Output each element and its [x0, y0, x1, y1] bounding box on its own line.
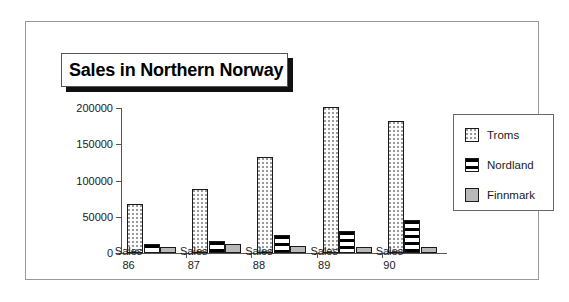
- y-axis-tick-label: 200000: [76, 102, 113, 114]
- x-axis-category-line: 90: [357, 258, 422, 272]
- x-axis-category-line: Sales: [226, 244, 291, 258]
- y-axis-tick: [116, 144, 121, 145]
- bar-group: [127, 108, 176, 253]
- legend-swatch-icon: [465, 188, 479, 202]
- plot-area: 050000100000150000200000: [121, 108, 447, 254]
- y-axis-tick-label: 100000: [76, 175, 113, 187]
- x-axis-category-line: Sales: [161, 244, 226, 258]
- bar-group: [323, 108, 372, 253]
- x-axis-category-line: 86: [96, 258, 161, 272]
- chart-legend: TromsNordlandFinnmark: [453, 114, 554, 211]
- y-axis-tick: [116, 217, 121, 218]
- bar-finnmark: [421, 247, 437, 253]
- legend-item-label: Nordland: [487, 159, 534, 171]
- page-title: Sales in Northern Norway: [69, 60, 283, 81]
- chart-frame: Sales in Northern Norway 050000100000150…: [25, 21, 539, 280]
- legend-swatch-icon: [465, 158, 479, 172]
- x-axis-category-line: 89: [292, 258, 357, 272]
- x-axis-category-label: Sales88: [226, 244, 291, 272]
- x-axis-category-label: Sales89: [292, 244, 357, 272]
- x-axis-category-line: 88: [226, 258, 291, 272]
- y-axis-line: [121, 108, 122, 254]
- y-axis-tick: [116, 108, 121, 109]
- legend-item-label: Troms: [487, 129, 519, 141]
- legend-swatch-icon: [465, 128, 479, 142]
- y-axis-tick-label: 50000: [82, 211, 113, 223]
- bar-group: [192, 108, 241, 253]
- y-axis-tick-label: 150000: [76, 138, 113, 150]
- x-axis-category-label: Sales86: [96, 244, 161, 272]
- legend-item-finnmark[interactable]: Finnmark: [465, 188, 535, 202]
- x-axis-category-label: Sales90: [357, 244, 422, 272]
- x-axis-category-label: Sales87: [161, 244, 226, 272]
- chart-title-box: Sales in Northern Norway: [61, 53, 288, 87]
- legend-item-nordland[interactable]: Nordland: [465, 158, 534, 172]
- x-axis-category-line: Sales: [96, 244, 161, 258]
- x-axis-category-line: Sales: [357, 244, 422, 258]
- x-axis-category-line: Sales: [292, 244, 357, 258]
- legend-item-troms[interactable]: Troms: [465, 128, 519, 142]
- bar-troms: [388, 121, 404, 253]
- x-axis-category-line: 87: [161, 258, 226, 272]
- y-axis-tick: [116, 181, 121, 182]
- bar-troms: [323, 107, 339, 253]
- bar-group: [257, 108, 306, 253]
- bar-group: [388, 108, 437, 253]
- legend-item-label: Finnmark: [487, 189, 535, 201]
- bar-troms: [257, 157, 273, 253]
